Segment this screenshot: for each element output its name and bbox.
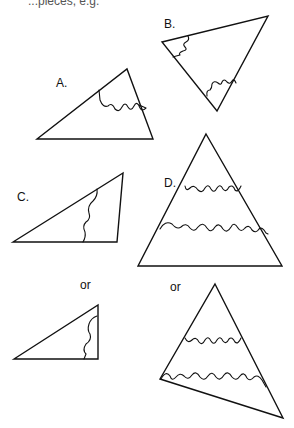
figure-a xyxy=(37,69,153,139)
label-c: C. xyxy=(17,190,29,204)
wavy-cut-b-bottom xyxy=(207,80,236,96)
triangle-d-alt xyxy=(160,284,283,418)
figure-b xyxy=(162,16,268,111)
label-a: A. xyxy=(56,76,67,90)
wavy-cut-d-lower xyxy=(160,223,268,234)
wavy-cut-d-upper xyxy=(185,186,241,192)
triangle-diagram xyxy=(0,0,294,428)
wavy-cut-c-alt xyxy=(84,316,97,359)
figure-c xyxy=(13,173,123,242)
figure-c-alt xyxy=(14,305,98,359)
figure-d-alt xyxy=(160,284,283,418)
triangle-b xyxy=(162,16,268,111)
label-or-d: or xyxy=(170,280,181,294)
triangle-d xyxy=(138,134,282,266)
triangle-c xyxy=(13,173,123,242)
label-d: D. xyxy=(164,176,176,190)
triangle-c-alt xyxy=(14,305,98,359)
label-or-c: or xyxy=(80,278,91,292)
label-b: B. xyxy=(164,17,175,31)
figure-d xyxy=(138,134,282,266)
wavy-cut-d-alt-upper xyxy=(185,338,241,344)
